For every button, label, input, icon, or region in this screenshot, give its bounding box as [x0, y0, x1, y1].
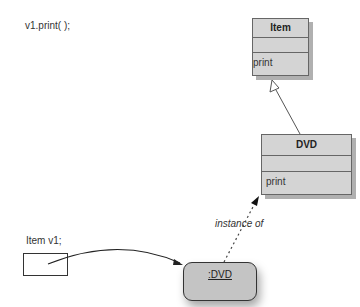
- reference-arrow-icon: [48, 250, 183, 265]
- connectors: [0, 0, 360, 307]
- instance-of-arrow-icon: [224, 196, 259, 262]
- generalization-arrow-icon: [270, 80, 300, 134]
